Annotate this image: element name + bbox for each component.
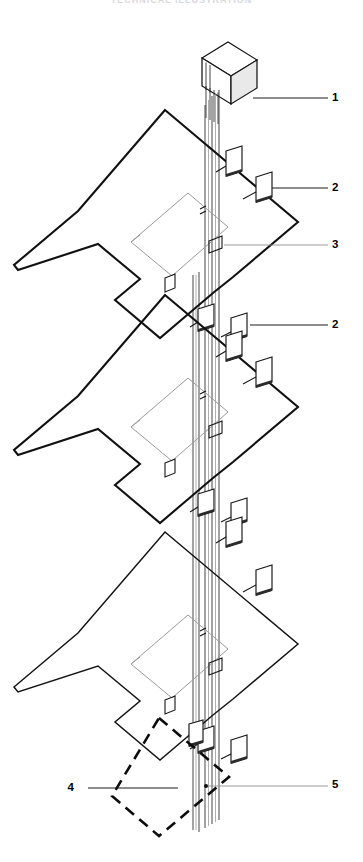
callout-4: 4: [68, 781, 178, 793]
riser-tap: [165, 459, 175, 477]
callout-3: 3: [224, 238, 338, 250]
inner-room-detail: [131, 657, 140, 664]
wall-mounted-device[interactable]: [216, 517, 242, 548]
wall-mounted-device[interactable]: [243, 565, 272, 596]
wall-mounted-device[interactable]: [216, 146, 242, 177]
isometric-riser-diagram: 1 2 3 2 4 5: [0, 0, 363, 862]
callout-5-label: 5: [332, 778, 339, 790]
floor-lower-inner-room: [131, 615, 228, 698]
floor-middle-outline: [14, 295, 298, 523]
wall-mounted-device[interactable]: [243, 357, 272, 388]
floor-middle: [14, 295, 298, 527]
callout-4-label: 4: [68, 781, 75, 793]
figure-root: TECHNICAL ILLUSTRATION: [0, 0, 363, 862]
callout-1-label: 1: [332, 91, 339, 103]
inner-room-detail: [131, 420, 140, 427]
callout-3-label: 3: [332, 238, 338, 250]
control-panel-unit: [202, 42, 257, 124]
inner-room-detail: [131, 235, 140, 242]
floor-lower-outline: [14, 532, 298, 760]
riser-tap: [165, 274, 175, 292]
connection-point-dot: [204, 784, 208, 788]
inner-room-outline: [131, 378, 228, 461]
floor-middle-inner-room: [131, 378, 228, 461]
inner-room-outline: [131, 615, 228, 698]
wall-mounted-device[interactable]: [221, 735, 247, 764]
callout-2b-label: 2: [332, 318, 338, 330]
floor-upper-outline: [14, 110, 298, 338]
callout-2a: 2: [272, 181, 338, 193]
wall-mounted-device[interactable]: [189, 720, 203, 747]
floor-upper: [14, 110, 298, 342]
wall-mounted-device[interactable]: [243, 172, 272, 203]
wall-mounted-device[interactable]: [216, 331, 242, 362]
floor-lower: [14, 517, 298, 764]
title-strip: TECHNICAL ILLUSTRATION: [0, 0, 363, 4]
callout-2a-label: 2: [332, 181, 338, 193]
riser-tap: [165, 696, 175, 714]
callout-2b: 2: [250, 318, 338, 330]
callout-1: 1: [253, 91, 339, 103]
inner-room-outline: [131, 193, 228, 276]
floor-upper-inner-room: [131, 193, 228, 276]
